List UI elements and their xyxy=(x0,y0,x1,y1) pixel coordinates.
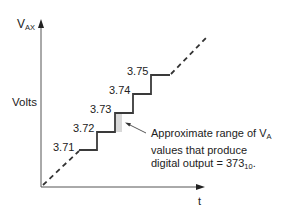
y-axis-arrow-icon xyxy=(38,19,44,28)
step-label-3-71: 3.71 xyxy=(53,141,74,153)
annotation-text: Approximate range of VA values that prod… xyxy=(151,127,272,174)
annotation-line-1: Approximate range of VA xyxy=(151,127,272,144)
y-axis-label-main: V xyxy=(17,17,25,31)
x-axis-label: t xyxy=(198,195,201,207)
step-label-3-73: 3.73 xyxy=(90,103,111,115)
annotation-pointer-line xyxy=(128,124,146,133)
annotation-line-2: values that produce xyxy=(151,144,272,158)
y-axis-label-sub: AX xyxy=(25,23,35,32)
staircase-diagram xyxy=(0,0,282,214)
dashed-ramp-lower xyxy=(43,151,79,185)
annotation-arrow-icon xyxy=(125,123,131,127)
dashed-ramp-upper xyxy=(171,38,206,74)
step-label-3-75: 3.75 xyxy=(127,65,148,77)
y-axis-label: VAX xyxy=(17,18,35,34)
step-label-3-72: 3.72 xyxy=(73,122,94,134)
y-axis-unit-label: Volts xyxy=(12,96,37,108)
shaded-range-band xyxy=(115,112,122,132)
annotation-line-3: digital output = 37310. xyxy=(151,157,272,174)
x-axis-arrow-icon xyxy=(196,184,205,190)
step-label-3-74: 3.74 xyxy=(109,84,130,96)
